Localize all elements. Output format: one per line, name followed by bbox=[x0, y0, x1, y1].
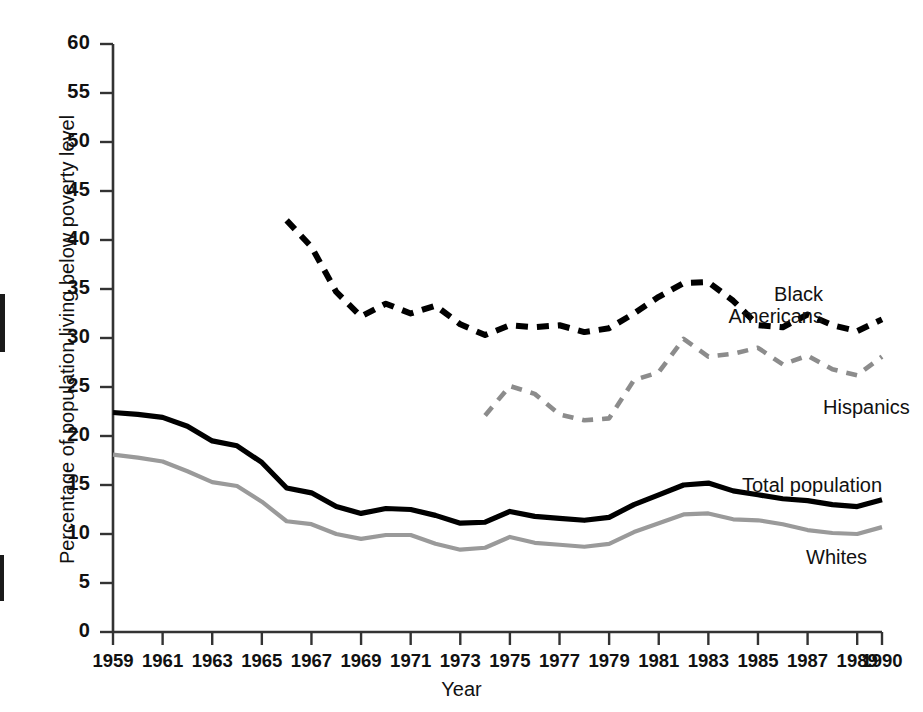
series-label-hispanics: Hispanics bbox=[823, 396, 910, 418]
poverty-line-chart-figure: 051015202530354045505560 195919611963196… bbox=[0, 0, 923, 712]
series-label-total-population: Total population bbox=[742, 474, 882, 496]
x-axis-title: Year bbox=[0, 678, 923, 701]
x-axis-tick-label: 1975 bbox=[489, 650, 530, 672]
x-axis-tick-label: 1969 bbox=[340, 650, 381, 672]
series-line-total-population bbox=[113, 412, 882, 523]
x-axis-tick-label: 1973 bbox=[440, 650, 481, 672]
series-label-black-americans: Black Americans bbox=[729, 283, 823, 328]
y-axis-title: Percentage of population living below po… bbox=[56, 60, 79, 620]
x-axis-tick-label: 1971 bbox=[390, 650, 431, 672]
series-label-whites: Whites bbox=[806, 546, 867, 568]
x-axis-tick-label: 1981 bbox=[638, 650, 679, 672]
series-line-whites bbox=[113, 455, 882, 550]
x-axis-tick-label: 1963 bbox=[192, 650, 233, 672]
x-axis-tick-label: 1967 bbox=[291, 650, 332, 672]
x-axis-tick-label: 1959 bbox=[92, 650, 133, 672]
series-label-black-americans-line2: Americans bbox=[729, 305, 823, 327]
x-axis-tick-label: 1985 bbox=[737, 650, 778, 672]
x-axis-tick-label: 1987 bbox=[787, 650, 828, 672]
series-label-black-americans-line1: Black bbox=[729, 283, 823, 305]
x-axis-tick-label: 1979 bbox=[589, 650, 630, 672]
x-axis-tick-label: 1990 bbox=[861, 650, 902, 672]
y-axis-tick-label: 0 bbox=[46, 619, 90, 642]
x-axis-tick-label: 1961 bbox=[142, 650, 183, 672]
x-axis-tick-label: 1983 bbox=[688, 650, 729, 672]
y-axis-ticks bbox=[100, 44, 113, 632]
page-caption-strip bbox=[0, 703, 923, 712]
x-axis-tick-label: 1977 bbox=[539, 650, 580, 672]
series-lines bbox=[113, 220, 882, 549]
chart-plot-area bbox=[0, 0, 923, 712]
x-axis-ticks bbox=[113, 632, 882, 645]
x-axis-tick-label: 1965 bbox=[241, 650, 282, 672]
y-axis-tick-label: 60 bbox=[46, 31, 90, 54]
